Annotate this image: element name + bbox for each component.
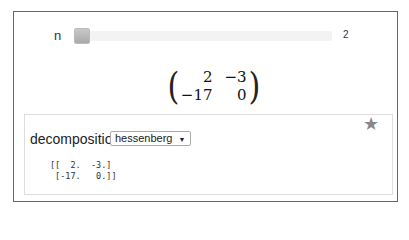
decomposition-output: [[ 2. -3.] [-17. 0.]] [50, 160, 117, 182]
matrix-display: ( 2 −3 −17 0 ) [166, 64, 261, 108]
slider-value: 2 [343, 29, 349, 40]
decomposition-select[interactable]: hessenberg ▼ [110, 131, 191, 146]
matrix-cell: 2 [181, 68, 213, 86]
slider-handle[interactable] [74, 28, 90, 44]
chevron-down-icon: ▼ [179, 136, 186, 143]
matrix-cell: 0 [224, 86, 246, 104]
matrix-cell: −3 [224, 68, 246, 86]
select-value: hessenberg [115, 132, 173, 144]
slider-label: n [54, 28, 61, 43]
decomposition-panel [24, 114, 393, 195]
decomposition-label: decomposition [30, 131, 120, 147]
left-paren: ( [167, 64, 179, 108]
right-paren: ) [248, 64, 260, 108]
slider-track[interactable] [74, 31, 332, 41]
star-icon[interactable]: ★ [363, 113, 379, 135]
matrix-cell: −17 [181, 86, 213, 104]
